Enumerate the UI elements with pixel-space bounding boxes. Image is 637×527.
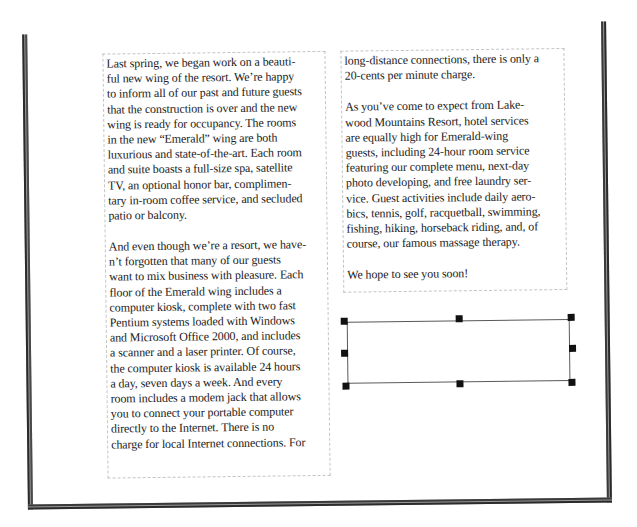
text-frame-left-column[interactable]: Last spring, we began work on a beauti- … <box>102 51 330 479</box>
page-edge-bottom <box>28 497 612 509</box>
paragraph: long-distance connections, there is only… <box>344 51 560 84</box>
resize-handle-middle-left[interactable] <box>341 350 348 357</box>
text-line: patio or balcony. <box>108 206 323 224</box>
page-edge-left <box>22 35 33 510</box>
paragraph: Last spring, we began work on a beauti- … <box>106 54 323 224</box>
text-line: wing is ready for occupancy. The rooms <box>107 115 322 133</box>
page-edge-right <box>601 21 612 502</box>
resize-handle-bottom-middle[interactable] <box>456 380 463 387</box>
text-line: long-distance connections, there is only… <box>344 51 560 69</box>
publication-workspace: Last spring, we began work on a beauti- … <box>0 0 637 527</box>
paragraph: We hope to see you soon! <box>347 265 563 283</box>
resize-handle-bottom-right[interactable] <box>568 379 575 386</box>
resize-handle-top-left[interactable] <box>341 318 348 325</box>
selected-text-box[interactable] <box>347 319 571 384</box>
text-frame-right-column[interactable]: long-distance connections, there is only… <box>340 48 567 293</box>
text-line: And even though we’re a resort, we have- <box>109 237 324 255</box>
text-line: want to mix business with pleasure. Each <box>109 267 324 285</box>
text-line: charge for local Internet connections. F… <box>111 434 326 452</box>
resize-handle-top-right[interactable] <box>568 314 575 321</box>
text-line: tary in-room coffee service, and seclude… <box>108 191 323 209</box>
text-line: We hope to see you soon! <box>347 265 563 283</box>
paragraph: And even though we’re a resort, we have-… <box>109 237 327 452</box>
text-line: guests, including 24-hour room service <box>346 143 562 161</box>
text-line: the computer kiosk is available 24 hours <box>110 358 325 376</box>
text-line: course, our famous massage therapy. <box>347 234 563 252</box>
paragraph: As you’ve come to expect from Lake- wood… <box>345 97 563 252</box>
text-line: 20-cents per minute charge. <box>345 66 561 84</box>
text-line: fishing, hiking, horseback riding, and, … <box>346 219 562 237</box>
resize-handle-middle-right[interactable] <box>569 345 576 352</box>
resize-handle-top-middle[interactable] <box>456 315 463 322</box>
resize-handle-bottom-left[interactable] <box>342 383 349 390</box>
